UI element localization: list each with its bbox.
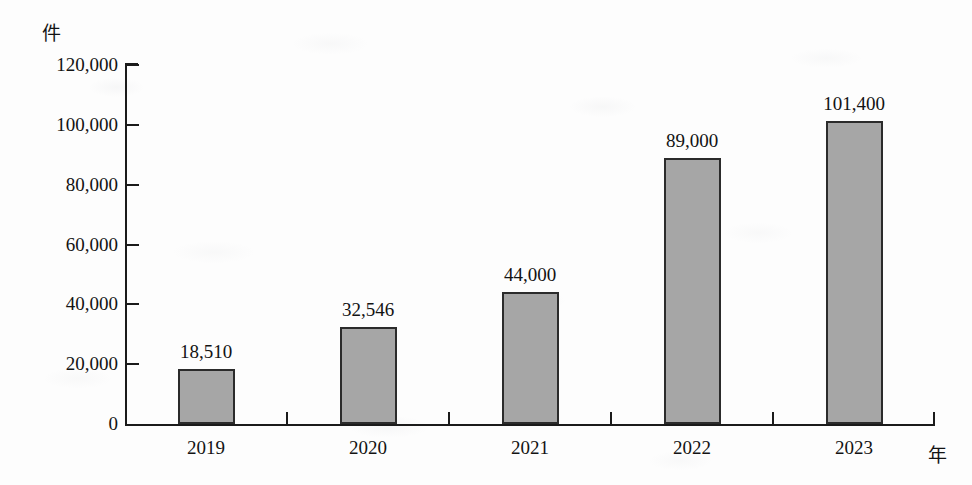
y-axis-tick-label: 0	[6, 413, 118, 435]
x-axis-tick	[772, 412, 774, 425]
bar-value-label: 32,546	[342, 299, 394, 321]
x-axis-tick	[286, 412, 288, 425]
bar-chart: 件 年 020,00040,00060,00080,000100,000120,…	[0, 0, 972, 485]
bar	[664, 158, 721, 424]
bar	[826, 121, 883, 424]
bar-value-label: 44,000	[504, 264, 556, 286]
y-axis-tick-label: 80,000	[6, 174, 118, 196]
y-axis-tick	[127, 244, 139, 246]
y-axis-tick	[127, 184, 139, 186]
y-axis-tick	[127, 64, 139, 66]
x-axis-end-cap	[933, 412, 935, 426]
x-axis-line	[125, 424, 935, 426]
x-axis-unit-label: 年	[928, 440, 947, 467]
bar-value-label: 89,000	[666, 130, 718, 152]
y-axis-tick	[127, 124, 139, 126]
x-axis-category-label: 2021	[511, 437, 549, 459]
y-axis-tick	[127, 363, 139, 365]
bar	[178, 369, 235, 424]
y-axis-unit-label: 件	[42, 18, 61, 45]
x-axis-tick	[610, 412, 612, 425]
x-axis-category-label: 2022	[673, 437, 711, 459]
x-axis-tick	[448, 412, 450, 425]
y-axis-tick-label: 60,000	[6, 234, 118, 256]
x-axis-category-label: 2019	[187, 437, 225, 459]
bar-value-label: 101,400	[823, 93, 885, 115]
x-axis-category-label: 2023	[835, 437, 873, 459]
x-axis-category-label: 2020	[349, 437, 387, 459]
bar	[340, 327, 397, 424]
bar-value-label: 18,510	[180, 341, 232, 363]
bar	[502, 292, 559, 424]
y-axis-tick	[127, 303, 139, 305]
y-axis-tick-label: 100,000	[6, 114, 118, 136]
y-axis-tick-label: 120,000	[6, 54, 118, 76]
y-axis-tick-label: 20,000	[6, 353, 118, 375]
y-axis-tick-label: 40,000	[6, 293, 118, 315]
